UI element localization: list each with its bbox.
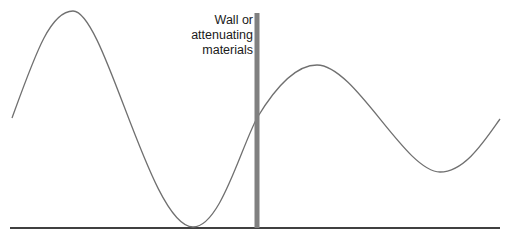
wave-attenuation-diagram: [0, 0, 509, 235]
wall-label-line-3: materials: [191, 43, 253, 58]
wall-barrier: [255, 13, 260, 228]
wall-label: Wall or attenuating materials: [191, 13, 253, 58]
wall-label-line-2: attenuating: [191, 28, 253, 43]
wall-label-line-1: Wall or: [191, 13, 253, 28]
